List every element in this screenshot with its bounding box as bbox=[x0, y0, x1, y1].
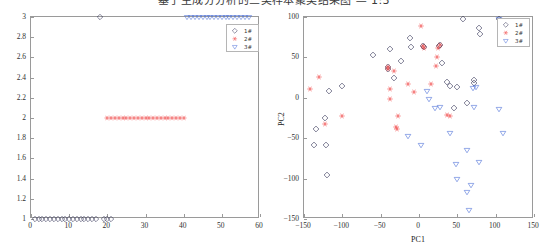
legend-entry-3[interactable]: 3# bbox=[498, 37, 529, 45]
y-tick-label: 1.4 bbox=[0, 173, 26, 182]
y-axis-label: PC2 bbox=[277, 112, 286, 126]
data-point-2 bbox=[315, 73, 322, 80]
y-tick-label: 100 bbox=[273, 12, 299, 21]
legend-label: 1# bbox=[514, 22, 523, 28]
y-tick-label: 2.6 bbox=[0, 52, 26, 61]
legend-label: 3# bbox=[243, 44, 252, 50]
data-point-2 bbox=[393, 125, 400, 132]
data-point-3 bbox=[464, 189, 471, 196]
data-point-1 bbox=[439, 60, 446, 67]
data-point-1 bbox=[391, 75, 398, 82]
y-tick-label: 1.2 bbox=[0, 193, 26, 202]
data-point-2 bbox=[446, 112, 453, 119]
legend-entry-2[interactable]: 2# bbox=[498, 29, 529, 37]
data-point-3 bbox=[426, 95, 433, 102]
legend-label: 2# bbox=[243, 36, 252, 42]
data-point-3 bbox=[463, 146, 470, 153]
data-point-1 bbox=[97, 14, 103, 20]
y-tick-label: −100 bbox=[273, 173, 299, 182]
data-point-1 bbox=[454, 84, 461, 91]
data-point-1 bbox=[477, 31, 484, 38]
data-point-1 bbox=[93, 216, 99, 222]
data-point-1 bbox=[463, 99, 470, 106]
x-tick-label: 10 bbox=[64, 221, 72, 230]
data-point-3 bbox=[245, 14, 251, 20]
x-tick bbox=[342, 214, 343, 217]
legend-entry-3[interactable]: 3# bbox=[227, 43, 258, 51]
pca-score-legend: 1#2#3# bbox=[497, 18, 530, 47]
data-point-2 bbox=[420, 44, 427, 51]
x-tick bbox=[496, 214, 497, 217]
data-point-2 bbox=[321, 120, 328, 127]
x-tick bbox=[222, 214, 223, 217]
data-point-3 bbox=[454, 175, 461, 182]
data-point-2 bbox=[405, 81, 412, 88]
y-tick bbox=[31, 17, 34, 18]
y-tick bbox=[31, 78, 34, 79]
y-tick-label: 0 bbox=[273, 92, 299, 101]
data-point-3 bbox=[436, 103, 443, 110]
data-point-2 bbox=[437, 42, 444, 49]
data-point-1 bbox=[323, 141, 330, 148]
x-tick-label: 150 bbox=[527, 221, 538, 230]
data-point-3 bbox=[472, 84, 479, 91]
y-tick bbox=[304, 179, 307, 180]
y-tick-label: −150 bbox=[273, 214, 299, 223]
data-point-3 bbox=[466, 207, 473, 214]
y-tick bbox=[31, 179, 34, 180]
data-point-1 bbox=[451, 105, 458, 112]
data-point-2 bbox=[394, 112, 401, 119]
legend-entry-1[interactable]: 1# bbox=[498, 21, 529, 29]
data-point-1 bbox=[370, 52, 377, 59]
legend-entry-1[interactable]: 1# bbox=[227, 27, 258, 35]
data-point-2 bbox=[433, 63, 440, 70]
data-point-3 bbox=[500, 130, 507, 137]
x-tick-label: 20 bbox=[103, 221, 111, 230]
y-tick-label: 3 bbox=[0, 12, 26, 21]
x-tick bbox=[304, 214, 305, 217]
x-tick-label: 100 bbox=[489, 221, 500, 230]
legend-marker-diamond-icon bbox=[227, 28, 243, 34]
y-tick-label: 2 bbox=[0, 113, 26, 122]
legend-marker-diamond-icon bbox=[498, 22, 514, 28]
y-tick bbox=[31, 37, 34, 38]
y-tick bbox=[304, 138, 307, 139]
x-axis-label: PC1 bbox=[411, 235, 425, 244]
data-point-1 bbox=[313, 125, 320, 132]
x-tick bbox=[184, 214, 185, 217]
y-tick-label: 1 bbox=[0, 214, 26, 223]
y-tick-label: 2.8 bbox=[0, 32, 26, 41]
cluster-assignment-axes bbox=[30, 16, 259, 218]
x-tick bbox=[419, 214, 420, 217]
y-tick bbox=[31, 138, 34, 139]
legend-marker-triangle-down-icon bbox=[227, 44, 243, 50]
legend-label: 3# bbox=[514, 38, 523, 44]
data-point-1 bbox=[325, 88, 332, 95]
figure-page: 基于主成分分析的三类样本聚类结果图 — 1:3 010203040506011.… bbox=[0, 0, 548, 249]
data-point-2 bbox=[307, 86, 314, 93]
data-point-3 bbox=[476, 158, 483, 165]
y-tick-label: 1.8 bbox=[0, 133, 26, 142]
y-tick bbox=[304, 57, 307, 58]
data-point-1 bbox=[324, 172, 331, 179]
data-point-1 bbox=[338, 83, 345, 90]
data-point-3 bbox=[468, 182, 475, 189]
y-tick bbox=[304, 219, 307, 220]
y-tick bbox=[31, 118, 34, 119]
data-point-3 bbox=[418, 141, 425, 148]
data-point-2 bbox=[387, 96, 394, 103]
y-tick bbox=[31, 199, 34, 200]
data-point-1 bbox=[397, 57, 404, 64]
x-tick-label: 40 bbox=[179, 221, 187, 230]
data-point-1 bbox=[311, 142, 318, 149]
data-point-2 bbox=[181, 115, 187, 121]
y-tick bbox=[31, 57, 34, 58]
data-point-2 bbox=[390, 68, 397, 75]
y-tick-label: 2.4 bbox=[0, 72, 26, 81]
legend-entry-2[interactable]: 2# bbox=[227, 35, 258, 43]
data-point-2 bbox=[411, 89, 418, 96]
x-tick-label: −50 bbox=[374, 221, 386, 230]
legend-marker-asterisk-icon bbox=[227, 36, 243, 42]
y-tick-label: 2.2 bbox=[0, 92, 26, 101]
x-tick bbox=[260, 214, 261, 217]
